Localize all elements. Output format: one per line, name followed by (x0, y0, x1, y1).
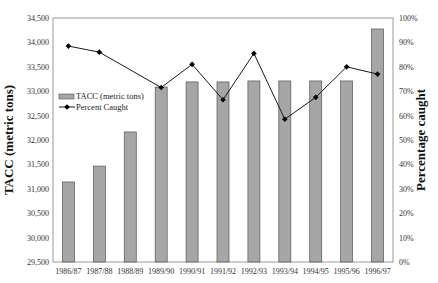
x-tick-label: 1992/93 (241, 267, 267, 276)
point-1987/88 (97, 49, 103, 55)
left-axis-ticks: 29,50030,00030,50031,00031,50032,00032,5… (27, 14, 49, 267)
left-tick-label: 32,000 (27, 136, 49, 145)
bar-1990/91 (186, 82, 198, 262)
x-tick-label: 1996/97 (364, 267, 390, 276)
left-tick-label: 31,000 (27, 185, 49, 194)
bar-1992/93 (248, 81, 260, 262)
x-tick-label: 1991/92 (210, 267, 236, 276)
x-tick-label: 1993/94 (272, 267, 298, 276)
combo-chart: 29,50030,00030,50031,00031,50032,00032,5… (0, 0, 438, 283)
left-tick-label: 33,000 (27, 87, 49, 96)
bar-1989/90 (155, 87, 167, 262)
left-tick-label: 31,500 (27, 160, 49, 169)
right-tick-label: 40% (399, 160, 414, 169)
right-tick-label: 10% (399, 234, 414, 243)
x-axis-ticks: 1986/871987/881988/891989/901990/911991/… (55, 267, 390, 276)
x-tick-label: 1989/90 (148, 267, 174, 276)
legend-swatch-bar (59, 94, 74, 99)
left-tick-label: 29,500 (27, 258, 49, 267)
x-tick-label: 1986/87 (55, 267, 81, 276)
left-tick-label: 32,500 (27, 112, 49, 121)
bar-1996/97 (372, 29, 384, 262)
right-tick-label: 60% (399, 112, 414, 121)
right-tick-label: 80% (399, 63, 414, 72)
x-tick-label: 1990/91 (179, 267, 205, 276)
bar-1987/88 (93, 166, 105, 262)
bar-series (62, 29, 383, 262)
x-tick-label: 1994/95 (303, 267, 329, 276)
legend-label-tacc: TACC (metric tons) (76, 91, 144, 101)
left-tick-label: 34,500 (27, 14, 49, 23)
bar-1993/94 (279, 81, 291, 262)
left-tick-label: 30,500 (27, 209, 49, 218)
x-tick-label: 1987/88 (86, 267, 112, 276)
left-tick-label: 33,500 (27, 63, 49, 72)
right-axis-title: Percentage caught (413, 88, 428, 191)
bar-1988/89 (124, 132, 136, 262)
right-tick-label: 70% (399, 87, 414, 96)
legend-label-percent: Percent Caught (76, 102, 129, 112)
point-1992/93 (251, 51, 257, 57)
legend-marker-icon (64, 104, 70, 110)
right-tick-label: 50% (399, 136, 414, 145)
bar-1995/96 (341, 81, 353, 262)
bar-1991/92 (217, 82, 229, 262)
right-tick-label: 0% (399, 258, 410, 267)
point-1986/87 (66, 43, 72, 49)
bar-1986/87 (62, 182, 74, 262)
right-tick-label: 20% (399, 209, 414, 218)
x-tick-label: 1988/89 (117, 267, 143, 276)
x-tick-label: 1995/96 (334, 267, 360, 276)
left-tick-label: 34,000 (27, 38, 49, 47)
right-tick-label: 100% (399, 14, 418, 23)
right-tick-label: 90% (399, 38, 414, 47)
bar-1994/95 (310, 81, 322, 262)
left-axis-title: TACC (metric tons) (1, 85, 16, 195)
right-tick-label: 30% (399, 185, 414, 194)
left-tick-label: 30,000 (27, 234, 49, 243)
legend: TACC (metric tons) Percent Caught (59, 91, 144, 112)
